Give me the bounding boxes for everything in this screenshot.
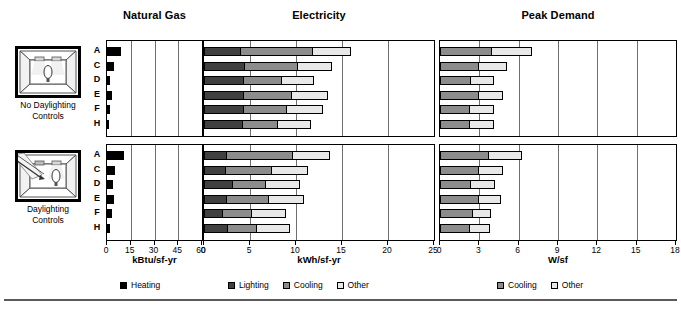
bar-segment-cooling — [440, 76, 471, 85]
bar-electricity-h — [204, 224, 290, 233]
bar-electricity-e — [204, 195, 304, 204]
gridline — [155, 145, 156, 240]
bar-segment-lighting — [204, 180, 233, 189]
bar-segment-cooling — [227, 224, 257, 233]
legend-item-heating: Heating — [120, 280, 160, 290]
gridline — [342, 145, 343, 240]
bar-natural-gas-a — [107, 151, 124, 160]
bar-segment-cooling — [225, 166, 272, 175]
legend-peak-demand: CoolingOther — [497, 280, 597, 290]
x-axis-electricity: 0510152025 — [203, 241, 435, 253]
x-axis-natural-gas: 015304560 — [106, 241, 203, 253]
legend-item-other: Other — [551, 280, 583, 290]
bar-segment-lighting — [204, 166, 226, 175]
bar-segment-lighting — [204, 62, 245, 71]
bar-segment-cooling — [242, 120, 278, 129]
bar-natural-gas-f — [107, 105, 110, 114]
gridline — [388, 41, 389, 136]
bar-segment-lighting — [204, 47, 241, 56]
bar-natural-gas-d — [107, 180, 113, 189]
bar-segment-cooling — [240, 47, 314, 56]
gridline — [178, 41, 179, 136]
bar-segment-other — [256, 224, 290, 233]
bar-segment-other — [472, 209, 492, 218]
bar-segment-cooling — [226, 151, 293, 160]
legend-label: Other — [562, 280, 583, 290]
bar-segment-lighting — [204, 224, 228, 233]
legend-swatch-heating — [120, 282, 127, 289]
bar-peak-demand-h — [440, 120, 494, 129]
bar-segment-other — [286, 105, 323, 114]
bar-natural-gas-e — [107, 195, 114, 204]
group-caption-no-daylighting: No Daylighting Controls — [10, 100, 86, 121]
bar-segment-cooling — [222, 209, 251, 218]
gridline — [388, 145, 389, 240]
gridline — [558, 145, 559, 240]
row-label-h: H — [90, 119, 104, 128]
chart-title-natural-gas: Natural Gas — [106, 9, 203, 21]
gridline — [597, 145, 598, 240]
bar-natural-gas-f — [107, 209, 112, 218]
bar-segment-other — [291, 91, 328, 100]
plot-panel-peak-demand-no-daylighting — [439, 40, 677, 137]
bar-segment-cooling — [440, 209, 473, 218]
bar-electricity-a — [204, 151, 330, 160]
group-icon-daylighting: Daylighting Controls — [10, 150, 86, 225]
legend-swatch-other — [337, 282, 344, 289]
bar-segment-other — [491, 47, 532, 56]
bar-natural-gas-d — [107, 76, 110, 85]
bar-segment-heating — [107, 209, 112, 218]
bar-electricity-h — [204, 120, 311, 129]
group-caption-daylighting: Daylighting Controls — [10, 204, 86, 225]
gridline — [558, 41, 559, 136]
bar-segment-heating — [107, 195, 114, 204]
chart-title-peak-demand: Peak Demand — [439, 9, 677, 21]
bar-segment-heating — [107, 151, 124, 160]
bar-electricity-c — [204, 166, 308, 175]
legend-label: Cooling — [294, 280, 323, 290]
row-label-a: A — [90, 150, 104, 159]
bar-natural-gas-a — [107, 47, 121, 56]
bar-segment-other — [470, 180, 495, 189]
row-label-e: E — [90, 90, 104, 99]
bar-segment-cooling — [440, 91, 479, 100]
bar-segment-cooling — [440, 120, 470, 129]
x-axis-label-natural-gas: kBtu/sf-yr — [106, 254, 203, 265]
plot-panel-electricity-no-daylighting — [203, 40, 435, 137]
bar-peak-demand-f — [440, 209, 491, 218]
bar-segment-other — [478, 195, 500, 204]
bar-electricity-a — [204, 47, 351, 56]
bar-segment-other — [297, 62, 332, 71]
bar-segment-cooling — [440, 224, 470, 233]
bar-natural-gas-c — [107, 62, 114, 71]
caption-line-1: No Daylighting — [20, 100, 75, 110]
plot-panel-electricity-daylighting — [203, 144, 435, 241]
bar-peak-demand-d — [440, 76, 494, 85]
bar-natural-gas-h — [107, 120, 109, 129]
gridline — [597, 41, 598, 136]
bar-segment-cooling — [226, 195, 269, 204]
bar-segment-other — [271, 166, 308, 175]
bar-segment-lighting — [204, 91, 244, 100]
bar-natural-gas-c — [107, 166, 115, 175]
bar-segment-cooling — [440, 151, 489, 160]
bar-segment-other — [251, 209, 286, 218]
bar-segment-cooling — [232, 180, 265, 189]
bar-segment-other — [478, 166, 503, 175]
bar-segment-cooling — [440, 195, 479, 204]
bar-segment-heating — [107, 166, 115, 175]
bar-segment-other — [478, 62, 507, 71]
legend-item-cooling: Cooling — [283, 280, 323, 290]
bar-peak-demand-c — [440, 166, 503, 175]
bar-segment-heating — [107, 47, 121, 56]
bar-natural-gas-e — [107, 91, 112, 100]
row-label-c: C — [90, 165, 104, 174]
gridline — [637, 145, 638, 240]
room-daylighting-icon — [15, 150, 81, 202]
x-axis-label-peak-demand: W/sf — [439, 254, 677, 265]
bar-segment-cooling — [440, 105, 470, 114]
bar-segment-lighting — [204, 151, 227, 160]
bar-peak-demand-a — [440, 47, 532, 56]
bar-segment-other — [470, 76, 494, 85]
bar-segment-cooling — [243, 105, 287, 114]
